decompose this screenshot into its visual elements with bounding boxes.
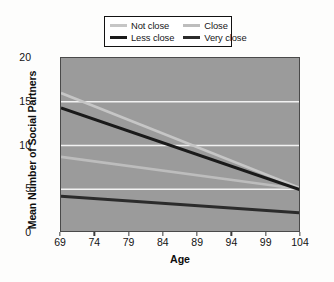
y-tick-label: 15 bbox=[0, 95, 31, 107]
x-tick-label: 94 bbox=[214, 236, 248, 248]
legend-swatch-not-close bbox=[110, 24, 127, 27]
x-tick-mark bbox=[162, 232, 163, 236]
y-tick-label: 0 bbox=[0, 226, 31, 238]
x-tick-label: 84 bbox=[146, 236, 180, 248]
x-tick-label: 104 bbox=[283, 236, 317, 248]
x-tick-label: 89 bbox=[180, 236, 214, 248]
chart-legend: Not close Close Less close Very close bbox=[104, 16, 232, 47]
legend-entry-close: Close bbox=[183, 20, 246, 31]
series-line-less-close bbox=[61, 108, 300, 190]
y-tick-label: 10 bbox=[0, 139, 31, 151]
x-tick-mark bbox=[94, 232, 95, 236]
plot-area bbox=[60, 57, 300, 232]
x-tick-mark bbox=[128, 232, 129, 236]
legend-label-very-close: Very close bbox=[204, 32, 246, 43]
x-tick-mark bbox=[196, 232, 197, 236]
x-tick-mark bbox=[59, 232, 60, 236]
legend-label-close: Close bbox=[204, 20, 227, 31]
legend-entry-very-close: Very close bbox=[183, 32, 246, 43]
legend-swatch-close bbox=[183, 24, 200, 27]
plot-svg bbox=[61, 58, 300, 232]
x-tick-label: 79 bbox=[112, 236, 146, 248]
y-tick-label: 5 bbox=[0, 182, 31, 194]
legend-entry-less-close: Less close bbox=[110, 32, 174, 43]
legend-entry-not-close: Not close bbox=[110, 20, 174, 31]
x-tick-mark bbox=[299, 232, 300, 236]
series-line-very-close bbox=[61, 196, 300, 213]
x-tick-label: 69 bbox=[43, 236, 77, 248]
legend-swatch-less-close bbox=[110, 36, 127, 39]
legend-swatch-very-close bbox=[183, 36, 200, 39]
x-tick-mark bbox=[231, 232, 232, 236]
x-tick-label: 99 bbox=[249, 236, 283, 248]
legend-label-less-close: Less close bbox=[131, 32, 174, 43]
x-tick-label: 74 bbox=[77, 236, 111, 248]
x-tick-mark bbox=[265, 232, 266, 236]
series-lines bbox=[61, 93, 300, 213]
legend-label-not-close: Not close bbox=[131, 20, 169, 31]
x-axis-label: Age bbox=[60, 253, 300, 265]
y-tick-label: 20 bbox=[0, 51, 31, 63]
chart-figure: Not close Close Less close Very close Me… bbox=[0, 0, 334, 282]
